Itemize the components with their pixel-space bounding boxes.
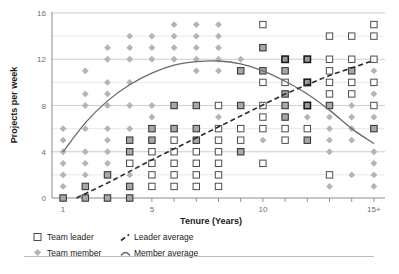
data-point-team-member [149, 102, 156, 109]
data-point-team-leader [193, 125, 199, 131]
data-point-team-leader [260, 44, 266, 50]
data-point-team-leader [171, 102, 177, 108]
data-point-team-member [193, 67, 200, 74]
data-point-team-leader [304, 56, 310, 62]
data-point-team-leader [171, 137, 177, 143]
data-point-team-member [60, 137, 67, 144]
legend: Team leader Team member Leader average M… [34, 232, 199, 258]
footer-divider [24, 256, 374, 257]
data-point-team-member [104, 79, 111, 86]
data-point-team-leader [326, 56, 332, 62]
data-point-team-leader [171, 125, 177, 131]
data-point-team-leader [260, 114, 266, 120]
legend-leader-average-icon [121, 235, 129, 241]
data-point-team-leader [371, 33, 377, 39]
y-tick-label: 16 [37, 9, 46, 18]
data-point-team-leader [371, 21, 377, 27]
data-point-team-member [371, 114, 378, 121]
scatter-plot-svg: 0481216 151015+ Tenure (Years) Projects … [0, 0, 399, 274]
data-point-team-leader [215, 183, 221, 189]
legend-team-member-icon [34, 249, 41, 256]
data-point-team-leader [149, 183, 155, 189]
data-point-team-leader [215, 149, 221, 155]
data-point-team-leader [127, 195, 133, 201]
data-point-team-member [371, 171, 378, 178]
y-tick-label: 4 [42, 148, 47, 157]
data-point-team-member [171, 33, 178, 40]
data-point-team-leader [215, 137, 221, 143]
data-point-team-leader [193, 160, 199, 166]
data-point-team-leader [349, 91, 355, 97]
data-point-team-leader [282, 68, 288, 74]
data-point-team-leader [371, 102, 377, 108]
data-point-team-member [126, 171, 133, 178]
data-point-team-leader [260, 21, 266, 27]
data-point-team-member [326, 114, 333, 121]
data-point-team-member [60, 183, 67, 190]
data-point-team-leader [260, 160, 266, 166]
x-tick-label: 1 [61, 205, 66, 214]
data-point-team-leader [215, 102, 221, 108]
x-axis-title: Tenure (Years) [180, 216, 242, 226]
data-point-team-leader [371, 56, 377, 62]
data-point-team-member [82, 148, 89, 155]
data-point-team-leader [238, 68, 244, 74]
data-point-team-leader [326, 68, 332, 74]
data-point-team-leader [215, 160, 221, 166]
data-point-team-member [60, 171, 67, 178]
y-tick-label: 8 [42, 102, 47, 111]
data-point-team-leader [282, 125, 288, 131]
data-point-team-leader [260, 79, 266, 85]
data-point-team-member [215, 33, 222, 40]
data-point-team-member [348, 171, 355, 178]
data-point-team-leader [282, 137, 288, 143]
data-point-team-leader [127, 183, 133, 189]
data-point-team-leader [60, 195, 66, 201]
data-point-team-leader [304, 125, 310, 131]
data-point-team-leader [171, 160, 177, 166]
chart-figure: 0481216 151015+ Tenure (Years) Projects … [0, 0, 399, 274]
data-point-team-member [82, 91, 89, 98]
data-point-team-leader [304, 137, 310, 143]
data-point-team-member [304, 114, 311, 121]
data-point-team-leader [193, 102, 199, 108]
data-point-team-leader [349, 79, 355, 85]
data-point-team-member [104, 91, 111, 98]
data-point-team-member [126, 44, 133, 51]
data-point-team-member [126, 56, 133, 63]
x-axis-tick-labels: 151015+ [61, 205, 381, 214]
data-point-team-member [260, 137, 267, 144]
data-point-team-member [104, 148, 111, 155]
data-point-team-member [149, 33, 156, 40]
data-point-team-leader [238, 125, 244, 131]
data-point-team-leader [349, 33, 355, 39]
data-point-team-leader [127, 160, 133, 166]
data-point-team-member [171, 44, 178, 51]
data-point-team-leader [127, 137, 133, 143]
data-point-team-member [193, 21, 200, 28]
data-point-team-leader [149, 172, 155, 178]
data-point-team-member [149, 44, 156, 51]
data-point-team-member [149, 56, 156, 63]
data-point-team-member [104, 125, 111, 132]
data-point-team-member [215, 114, 222, 121]
data-point-team-member [326, 148, 333, 155]
data-point-team-member [82, 67, 89, 74]
data-point-team-leader [349, 56, 355, 62]
x-tick-label: 15+ [367, 205, 381, 214]
data-point-team-leader [193, 172, 199, 178]
x-tick-label: 5 [150, 205, 155, 214]
data-point-team-member [348, 102, 355, 109]
data-point-team-leader [238, 102, 244, 108]
data-point-team-leader [82, 183, 88, 189]
data-point-team-leader [104, 172, 110, 178]
data-point-team-member [104, 160, 111, 167]
data-point-team-leader [127, 149, 133, 155]
data-point-team-leader [171, 172, 177, 178]
data-point-team-member [193, 44, 200, 51]
data-point-team-member [82, 171, 89, 178]
x-tick-label: 10 [258, 205, 267, 214]
data-point-team-member [326, 183, 333, 190]
data-point-team-leader [326, 91, 332, 97]
data-point-team-member [82, 102, 89, 109]
